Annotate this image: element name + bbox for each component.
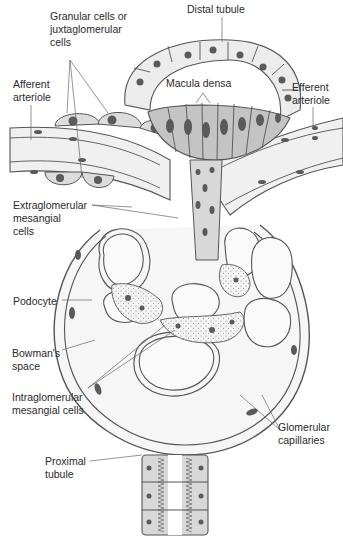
label-podocyte: Podocyte <box>13 295 57 308</box>
proximal-tubule <box>142 455 208 535</box>
label-bowmans-space: Bowman's space <box>12 347 60 373</box>
label-distal-tubule: Distal tubule <box>187 3 245 16</box>
extraglomerular-mesangium <box>190 160 222 260</box>
label-extraglomerular-mesangial-cells: Extraglomerular mesangial cells <box>13 199 87 238</box>
label-macula-densa: Macula densa <box>166 77 231 90</box>
label-efferent-arteriole: Efferent arteriole <box>292 81 330 107</box>
label-granular-cells: Granular cells or juxtaglomerular cells <box>50 10 127 49</box>
label-intraglomerular-mesangial-cells: Intraglomerular mesangial cells <box>12 391 84 417</box>
label-afferent-arteriole: Afferent arteriole <box>13 78 51 104</box>
label-glomerular-capillaries: Glomerular capillaries <box>278 421 330 447</box>
label-proximal-tubule: Proximal tubule <box>45 455 86 481</box>
